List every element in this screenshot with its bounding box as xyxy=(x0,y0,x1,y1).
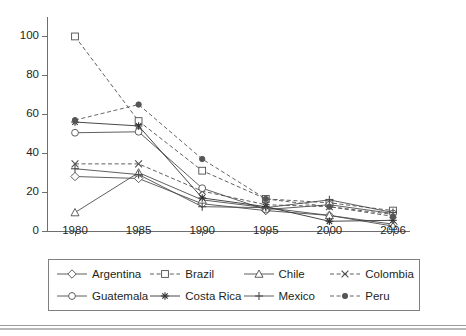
y-tick-label: 60 xyxy=(1,108,39,120)
filled-circle-marker-icon xyxy=(328,289,362,303)
x-tick-label: 1985 xyxy=(109,224,169,236)
legend-label: Guatemala xyxy=(92,290,148,302)
legend-item-argentina[interactable]: Argentina xyxy=(55,267,148,281)
legend-label: Chile xyxy=(279,268,305,280)
x-tick-label: 1980 xyxy=(45,224,105,236)
legend-label: Costa Rica xyxy=(185,290,241,302)
diamond-marker-icon xyxy=(55,267,89,281)
series-brazil xyxy=(72,33,397,214)
triangle-marker-icon xyxy=(242,267,276,281)
series-peru xyxy=(72,102,395,219)
square-marker-icon xyxy=(148,267,182,281)
footer-rule-top xyxy=(0,325,466,326)
plus-marker-icon xyxy=(242,289,276,303)
legend-item-mexico[interactable]: Mexico xyxy=(242,289,329,303)
legend-item-chile[interactable]: Chile xyxy=(242,267,329,281)
legend-label: Mexico xyxy=(279,290,315,302)
y-tick-label: 20 xyxy=(1,186,39,198)
legend-label: Colombia xyxy=(365,268,414,280)
chart-figure: 020406080100 198019851990199520002006 Ar… xyxy=(0,0,466,336)
legend-label: Peru xyxy=(365,290,389,302)
legend-label: Argentina xyxy=(92,268,141,280)
x-tick-label: 2000 xyxy=(299,224,359,236)
legend-item-costa-rica[interactable]: Costa Rica xyxy=(148,289,241,303)
x-tick-label: 1995 xyxy=(236,224,296,236)
x-tick-label: 2006 xyxy=(363,224,423,236)
circle-marker-icon xyxy=(55,289,89,303)
legend-item-guatemala[interactable]: Guatemala xyxy=(55,289,148,303)
series-argentina xyxy=(71,172,397,228)
chart-legend: ArgentinaBrazilChileColombiaGuatemalaCos… xyxy=(48,259,420,311)
legend-item-brazil[interactable]: Brazil xyxy=(148,267,241,281)
x-tick-label: 1990 xyxy=(172,224,232,236)
legend-grid: ArgentinaBrazilChileColombiaGuatemalaCos… xyxy=(49,260,419,310)
y-tick-label: 40 xyxy=(1,147,39,159)
y-tick-label: 80 xyxy=(1,69,39,81)
plot-area xyxy=(47,17,410,232)
y-tick-label: 100 xyxy=(1,30,39,42)
y-tick-label: 0 xyxy=(1,225,39,237)
legend-item-colombia[interactable]: Colombia xyxy=(328,267,415,281)
series-layer xyxy=(47,17,410,232)
legend-label: Brazil xyxy=(185,268,214,280)
legend-item-peru[interactable]: Peru xyxy=(328,289,415,303)
cross-x-marker-icon xyxy=(328,267,362,281)
footer-rule-bottom xyxy=(0,328,466,330)
asterisk-marker-icon xyxy=(148,289,182,303)
